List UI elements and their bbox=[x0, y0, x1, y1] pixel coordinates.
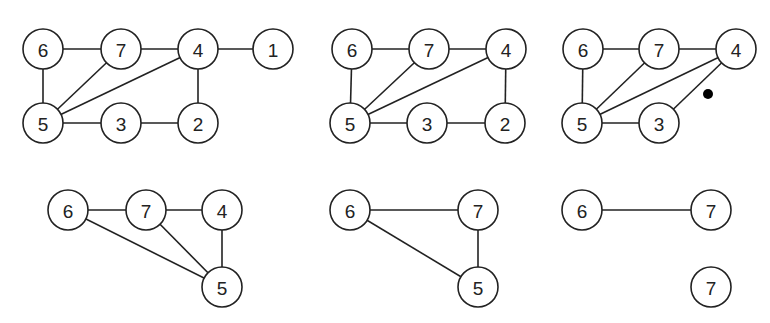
node-label: 5 bbox=[345, 114, 356, 135]
node-4: 4 bbox=[716, 29, 756, 69]
node-5: 5 bbox=[458, 267, 498, 307]
node-4: 4 bbox=[202, 190, 242, 230]
node-2: 2 bbox=[178, 103, 218, 143]
graph-6: 677 bbox=[562, 190, 731, 307]
graph-2: 674532 bbox=[330, 29, 526, 143]
node-7: 7 bbox=[639, 29, 679, 69]
node-label: 3 bbox=[654, 114, 665, 135]
node-7: 7 bbox=[691, 190, 731, 230]
node-7: 7 bbox=[101, 29, 141, 69]
node-label: 5 bbox=[38, 114, 49, 135]
node-6: 6 bbox=[330, 190, 370, 230]
node-5: 5 bbox=[562, 103, 602, 143]
node-label: 6 bbox=[63, 201, 74, 222]
node-label: 5 bbox=[577, 114, 588, 135]
node-label: 5 bbox=[217, 278, 228, 299]
node-5: 5 bbox=[202, 267, 242, 307]
node-label: 6 bbox=[38, 40, 49, 61]
node-1: 1 bbox=[253, 29, 293, 69]
graph-reduction-diagram: 6741532674532674536745675677 bbox=[0, 0, 770, 323]
node-6: 6 bbox=[23, 29, 63, 69]
graph-5: 675 bbox=[330, 190, 498, 307]
node-label: 3 bbox=[422, 114, 433, 135]
node-label: 4 bbox=[501, 40, 512, 61]
node-label: 7 bbox=[654, 40, 665, 61]
node-4: 4 bbox=[486, 29, 526, 69]
node-7: 7 bbox=[458, 190, 498, 230]
edge-6-5 bbox=[350, 210, 478, 287]
node-6: 6 bbox=[562, 190, 602, 230]
node-label: 4 bbox=[217, 201, 228, 222]
node-label: 6 bbox=[578, 40, 589, 61]
node-label: 5 bbox=[473, 278, 484, 299]
node-label: 6 bbox=[345, 201, 356, 222]
node-4: 4 bbox=[178, 29, 218, 69]
node-label: 7 bbox=[473, 201, 484, 222]
node-7: 7 bbox=[691, 267, 731, 307]
graph-1: 6741532 bbox=[23, 29, 293, 143]
node-label: 7 bbox=[706, 278, 717, 299]
node-2: 2 bbox=[485, 103, 525, 143]
node-3: 3 bbox=[639, 103, 679, 143]
node-label: 4 bbox=[193, 40, 204, 61]
node-label: 4 bbox=[731, 40, 742, 61]
node-label: 1 bbox=[268, 40, 279, 61]
node-5: 5 bbox=[330, 103, 370, 143]
node-label: 6 bbox=[577, 201, 588, 222]
node-6: 6 bbox=[48, 190, 88, 230]
node-3: 3 bbox=[101, 103, 141, 143]
node-label: 7 bbox=[141, 201, 152, 222]
node-7: 7 bbox=[126, 190, 166, 230]
marker-dot bbox=[703, 89, 713, 99]
node-label: 2 bbox=[193, 114, 204, 135]
node-7: 7 bbox=[409, 29, 449, 69]
node-6: 6 bbox=[563, 29, 603, 69]
node-6: 6 bbox=[332, 29, 372, 69]
node-label: 6 bbox=[347, 40, 358, 61]
node-label: 7 bbox=[424, 40, 435, 61]
node-label: 2 bbox=[500, 114, 511, 135]
node-label: 3 bbox=[116, 114, 127, 135]
node-label: 7 bbox=[706, 201, 717, 222]
node-label: 7 bbox=[116, 40, 127, 61]
graph-3: 67453 bbox=[562, 29, 756, 143]
node-5: 5 bbox=[23, 103, 63, 143]
graph-4: 6745 bbox=[48, 190, 242, 307]
node-3: 3 bbox=[407, 103, 447, 143]
